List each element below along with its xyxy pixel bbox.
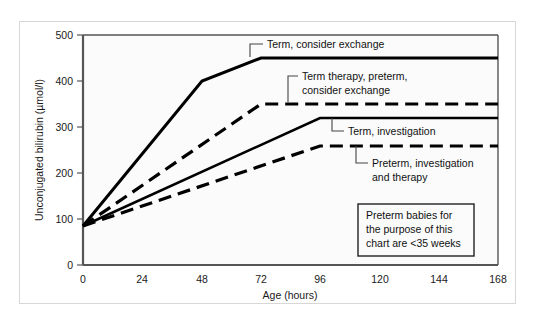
chart-svg: 0 100 200 300 400 500 0 24 48 72 96 120 … <box>0 0 535 324</box>
callout-label-preterm-investigation-line1: Preterm, investigation <box>372 157 474 169</box>
note-box-line-3: chart are <35 weeks <box>366 237 461 249</box>
y-tick-label-400: 400 <box>55 75 73 87</box>
y-tick-label-300: 300 <box>55 121 73 133</box>
x-tick-label-96: 96 <box>314 273 326 285</box>
chart-figure: 0 100 200 300 400 500 0 24 48 72 96 120 … <box>0 0 535 324</box>
callout-label-term-therapy-preterm-line1: Term therapy, preterm, <box>302 70 407 82</box>
y-tick-label-0: 0 <box>67 259 73 271</box>
plot-area-wrapper: 0 100 200 300 400 500 0 24 48 72 96 120 … <box>0 0 535 324</box>
callout-label-term-therapy-preterm-line2: consider exchange <box>302 84 390 96</box>
note-box-line-2: the purpose of this <box>366 223 452 235</box>
y-tick-label-200: 200 <box>55 167 73 179</box>
y-tick-label-100: 100 <box>55 213 73 225</box>
callout-label-term-investigation: Term, investigation <box>348 125 436 137</box>
x-tick-label-48: 48 <box>196 273 208 285</box>
x-tick-label-144: 144 <box>430 273 448 285</box>
y-tick-label-500: 500 <box>55 29 73 41</box>
x-tick-label-120: 120 <box>371 273 389 285</box>
x-tick-label-24: 24 <box>136 273 148 285</box>
y-axis-title: Unconjugated bilirubin (µmol/l) <box>33 79 45 221</box>
x-tick-label-0: 0 <box>80 273 86 285</box>
x-tick-label-72: 72 <box>255 273 267 285</box>
x-tick-label-168: 168 <box>489 273 507 285</box>
x-axis-title: Age (hours) <box>263 289 318 301</box>
callout-label-preterm-investigation-line2: and therapy <box>372 171 428 183</box>
callout-label-term-consider-exchange: Term, consider exchange <box>267 38 384 50</box>
note-box-line-1: Preterm babies for <box>366 209 453 221</box>
